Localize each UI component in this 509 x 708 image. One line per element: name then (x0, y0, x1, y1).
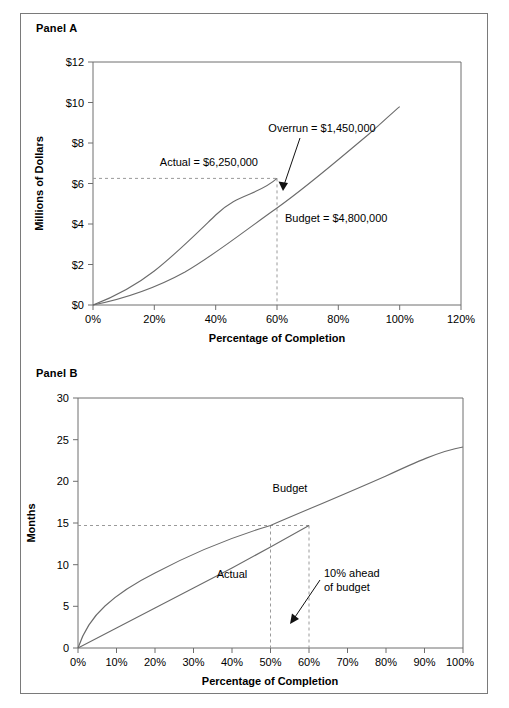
panel-a-ytick-10: $10 (66, 97, 84, 109)
panel-a-chart: $0 $2 $4 $6 $8 $10 $12 0% 20% (33, 56, 475, 344)
panel-b-xtick-70: 70% (336, 656, 358, 668)
panel-a-reference-lines (93, 178, 277, 305)
panel-b-ytick-0: 0 (63, 642, 69, 654)
panel-a-y-tick-labels: $0 $2 $4 $6 $8 $10 $12 (66, 56, 84, 311)
panel-a-ytick-2: $2 (72, 259, 84, 271)
panel-a-xtick-20: 20% (143, 313, 165, 325)
panel-b-actual-curve (78, 526, 309, 649)
panel-b-ahead-leader (293, 580, 320, 620)
panel-b-annotation-ahead-line1: 10% ahead (324, 567, 380, 579)
panel-b-xtick-50: 50% (259, 656, 281, 668)
panel-a-xtick-40: 40% (205, 313, 227, 325)
panel-a-xtick-80: 80% (327, 313, 349, 325)
panel-b-xtick-60: 60% (298, 656, 320, 668)
panel-b-chart: 0 5 10 15 20 25 30 (25, 392, 474, 687)
panel-a-annotation-actual: Actual = $6,250,000 (160, 156, 258, 168)
panel-b-xtick-80: 80% (375, 656, 397, 668)
panel-a-ytick-4: $4 (72, 218, 84, 230)
panel-a-annotation-overrun: Overrun = $1,450,000 (268, 122, 375, 134)
panel-b-y-ticks (73, 398, 78, 648)
panel-a-y-ticks (88, 62, 93, 305)
panel-b-ahead-arrowhead (290, 614, 299, 625)
panel-a-ytick-6: $6 (72, 178, 84, 190)
panel-a-xtick-60: 60% (266, 313, 288, 325)
panel-a-actual-curve (93, 178, 277, 305)
panel-a-xtick-0: 0% (85, 313, 101, 325)
panel-b-ytick-5: 5 (63, 600, 69, 612)
figure-container: Panel A Panel B $0 $2 $4 $6 (0, 0, 509, 708)
panel-a-x-axis-title: Percentage of Completion (209, 332, 346, 344)
panel-a-y-axis-title: Millions of Dollars (33, 136, 45, 231)
panel-b-x-tick-labels: 0% 10% 20% 30% 40% 50% 60% 70% 80% 90% 1… (70, 656, 474, 668)
panel-a-x-tick-labels: 0% 20% 40% 60% 80% 100% 120% (85, 313, 475, 325)
panel-b-ytick-15: 15 (57, 517, 69, 529)
panel-b-xtick-90: 90% (413, 656, 435, 668)
panel-a-xtick-120: 120% (447, 313, 475, 325)
panel-b-xtick-30: 30% (182, 656, 204, 668)
panel-b-annotation-actual: Actual (217, 568, 248, 580)
panel-a-ytick-12: $12 (66, 56, 84, 68)
panel-a-ytick-8: $8 (72, 137, 84, 149)
charts-svg: $0 $2 $4 $6 $8 $10 $12 0% 20% (0, 0, 509, 708)
panel-a-overrun-leader (283, 138, 300, 188)
panel-b-xtick-20: 20% (144, 656, 166, 668)
panel-b-ytick-25: 25 (57, 434, 69, 446)
panel-a-ytick-0: $0 (72, 299, 84, 311)
panel-b-xtick-0: 0% (70, 656, 86, 668)
panel-a-annotation-budget: Budget = $4,800,000 (285, 212, 387, 224)
panel-b-annotation-ahead-line2: of budget (324, 581, 370, 593)
panel-b-annotation-budget: Budget (273, 482, 308, 494)
panel-b-xtick-40: 40% (221, 656, 243, 668)
panel-b-ytick-30: 30 (57, 392, 69, 404)
panel-b-ytick-20: 20 (57, 475, 69, 487)
panel-b-y-tick-labels: 0 5 10 15 20 25 30 (57, 392, 69, 654)
panel-a-x-ticks (93, 305, 461, 310)
panel-a-xtick-100: 100% (386, 313, 414, 325)
panel-b-x-ticks (78, 648, 463, 653)
panel-b-y-axis-title: Months (25, 503, 37, 542)
panel-b-x-axis-title: Percentage of Completion (202, 675, 339, 687)
panel-a-budget-curve (93, 107, 400, 305)
panel-b-xtick-10: 10% (105, 656, 127, 668)
panel-a-overrun-arrowhead (279, 182, 289, 192)
panel-b-xtick-100: 100% (446, 656, 474, 668)
panel-b-ytick-10: 10 (57, 559, 69, 571)
